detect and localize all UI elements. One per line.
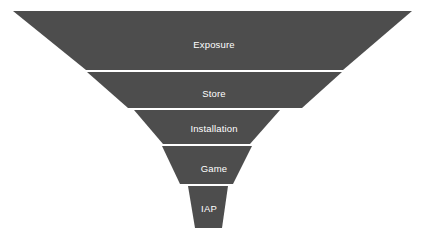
funnel-chart-canvas: ExposureStoreInstallationGameIAP: [0, 0, 427, 239]
funnel-chart: ExposureStoreInstallationGameIAP: [0, 0, 427, 239]
funnel-label-installation: Installation: [190, 123, 237, 134]
funnel-label-exposure: Exposure: [193, 39, 234, 50]
funnel-label-game: Game: [201, 163, 227, 174]
funnel-segment-group: ExposureStoreInstallationGameIAP: [13, 11, 412, 228]
funnel-label-store: Store: [202, 88, 225, 99]
funnel-label-iap: IAP: [201, 203, 217, 214]
